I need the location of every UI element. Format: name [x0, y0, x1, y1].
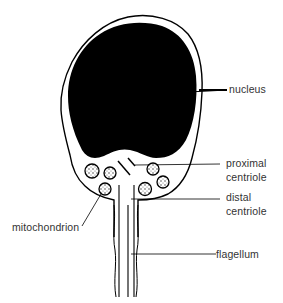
- flagellum-wall-right: [136, 205, 138, 297]
- label-proximal-centriole-line2: centriole: [226, 171, 267, 183]
- mitochondrion-icon: [157, 176, 169, 188]
- nucleus-shape: [68, 23, 197, 158]
- flagellum-axoneme: [119, 185, 134, 297]
- label-nucleus: nucleus: [229, 83, 266, 95]
- mitochondrion-icon: [99, 183, 111, 195]
- mitochondrion-icon: [104, 167, 116, 179]
- label-distal-centriole-line1: distal: [226, 191, 251, 203]
- label-mitochondrion: mitochondrion: [12, 221, 79, 233]
- mitochondrion-icon: [147, 163, 159, 175]
- label-proximal-centriole-line1: proximal: [226, 157, 266, 169]
- label-distal-centriole-line2: centriole: [226, 205, 267, 217]
- mitochondria-group: [85, 163, 169, 196]
- proximal-centriole-icon: [118, 158, 135, 175]
- mitochondrion-pointer-line: [82, 194, 101, 226]
- proximal-centriole-pointer-line: [135, 164, 220, 165]
- mitochondrion-icon: [139, 183, 152, 196]
- flagellum-wall-left: [114, 205, 116, 297]
- mitochondrion-icon: [85, 164, 99, 178]
- label-flagellum: flagellum: [216, 248, 259, 260]
